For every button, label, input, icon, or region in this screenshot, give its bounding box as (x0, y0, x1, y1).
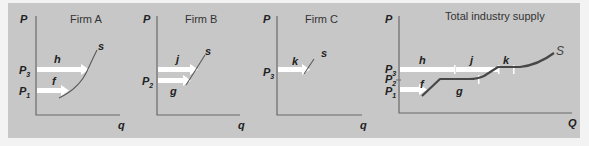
y-axis-label: P (263, 13, 271, 25)
curve-label: S (556, 44, 564, 58)
segment-label: j (468, 54, 474, 66)
panel-total-industry-supply: P Total industry supply Q S h j k f g P3… (385, 10, 577, 129)
industry-supply-curve (422, 53, 554, 96)
panel-firm-c: P Firm C q s k P3 (263, 13, 367, 131)
arrow-h (37, 67, 81, 72)
axes (277, 16, 362, 115)
y-axis-label: P (143, 13, 151, 25)
supply-aggregation-figure: P Firm A q s h f P3 P1 P Firm B q s j g … (8, 3, 580, 138)
y-axis-label: P (20, 13, 28, 25)
arrow-g (158, 78, 183, 83)
y-axis-label: P (385, 13, 393, 25)
curve-label: s (98, 40, 104, 52)
arrow-f (400, 87, 420, 92)
segment-label: j (174, 53, 180, 65)
figure-canvas: P Firm A q s h f P3 P1 P Firm B q s j g … (8, 3, 580, 138)
panel-title: Firm A (70, 13, 102, 25)
segment-label: h (54, 53, 61, 65)
curve-label: s (205, 45, 211, 57)
arrow-k (278, 67, 302, 72)
arrow-j (158, 67, 190, 72)
curve-label: s (321, 47, 327, 59)
price-label-p3: P3 (263, 66, 274, 80)
arrowhead-icon (302, 64, 310, 75)
arrow-h (400, 67, 454, 72)
segment-label: g (169, 85, 177, 97)
segment-label: g (455, 85, 463, 97)
panel-title: Firm B (185, 13, 217, 25)
tick (478, 75, 480, 84)
x-axis-label: Q (568, 117, 577, 129)
tick (454, 65, 456, 74)
x-axis-label: q (360, 119, 367, 131)
axes (36, 16, 120, 115)
panel-firm-b: P Firm B q s j g P2 (142, 13, 245, 131)
panel-title: Total industry supply (445, 10, 545, 22)
panel-firm-a: P Firm A q s h f P3 P1 (19, 13, 125, 131)
segment-label: k (292, 55, 299, 67)
price-label-p2: P2 (142, 75, 153, 89)
panel-title: Firm C (305, 13, 338, 25)
segment-label: h (419, 54, 426, 66)
price-label-p3: P3 (19, 64, 30, 78)
x-axis-label: q (118, 119, 125, 131)
segment-label: k (503, 54, 510, 66)
segment-label: f (52, 75, 57, 87)
price-label-p1: P1 (385, 85, 396, 99)
x-axis-label: q (238, 119, 245, 131)
arrow-f (37, 88, 61, 93)
price-label-p1: P1 (19, 85, 30, 99)
